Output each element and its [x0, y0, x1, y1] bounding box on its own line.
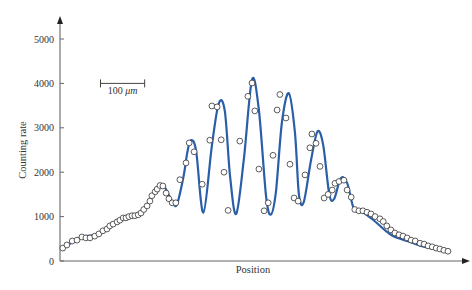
data-point	[183, 160, 189, 166]
data-point	[274, 107, 280, 113]
data-point	[218, 137, 224, 143]
y-tick-label: 0	[49, 256, 54, 267]
data-point	[277, 92, 283, 98]
data-point	[348, 194, 354, 200]
scale-bar: 100 μm	[101, 79, 145, 96]
data-point	[186, 140, 192, 146]
data-point	[329, 187, 335, 193]
data-point	[245, 93, 251, 99]
y-axis-arrow-icon	[57, 16, 63, 24]
x-axis-title: Position	[236, 264, 271, 275]
data-point	[344, 187, 350, 193]
data-point	[256, 166, 262, 172]
data-point	[283, 115, 289, 121]
data-point	[307, 145, 313, 151]
data-point	[317, 164, 323, 170]
data-point	[313, 140, 319, 146]
axes	[57, 16, 470, 264]
data-point	[147, 198, 153, 204]
data-point	[445, 248, 451, 254]
data-point	[302, 172, 308, 178]
y-tick-label: 1000	[34, 211, 54, 222]
data-point	[225, 208, 231, 214]
data-point	[221, 169, 227, 175]
data-point	[287, 161, 293, 167]
data-point	[261, 208, 267, 214]
fit-curve	[63, 78, 448, 252]
data-point	[265, 200, 271, 206]
scale-bar-label: 100 μm	[108, 85, 138, 96]
data-point	[249, 80, 255, 86]
data-point	[295, 198, 301, 204]
data-point	[214, 104, 220, 110]
y-tick-label: 2000	[34, 167, 54, 178]
y-axis-title: Counting rate	[17, 121, 28, 179]
data-points	[60, 80, 451, 254]
data-point	[270, 152, 276, 158]
data-point	[163, 190, 169, 196]
data-point	[160, 183, 166, 189]
y-tick-label: 4000	[34, 78, 54, 89]
data-point	[173, 200, 179, 206]
data-point	[191, 149, 197, 155]
y-tick-label: 3000	[34, 122, 54, 133]
data-point	[309, 131, 315, 137]
data-point	[64, 242, 70, 248]
data-point	[252, 108, 258, 114]
x-axis-arrow-icon	[462, 258, 470, 264]
data-point	[207, 137, 213, 143]
data-point	[177, 177, 183, 183]
data-point	[341, 177, 347, 183]
y-tick-label: 5000	[34, 34, 54, 45]
chart: 010002000300040005000 Counting rate Posi…	[0, 0, 472, 290]
data-point	[237, 138, 243, 144]
data-point	[199, 181, 205, 187]
